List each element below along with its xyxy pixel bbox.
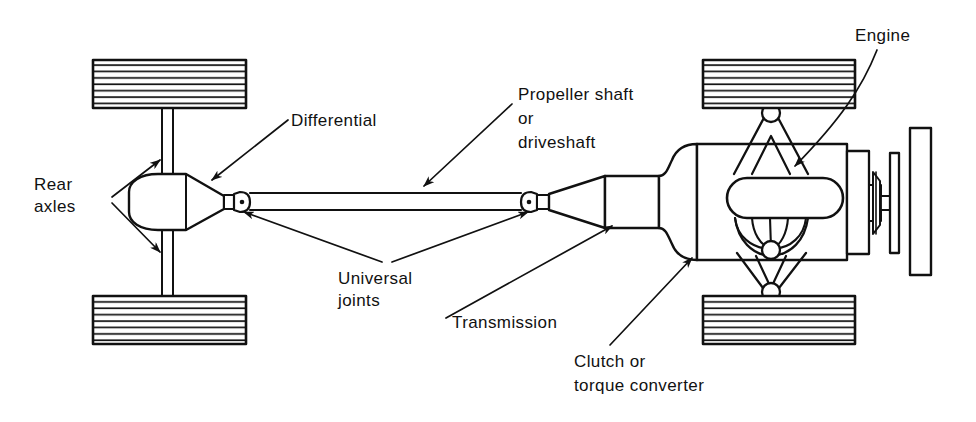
- rear-right-tire: [93, 296, 246, 344]
- rear-left-tire: [93, 60, 246, 108]
- label-transmission: Transmission: [452, 313, 557, 332]
- label-differential: Differential: [291, 111, 377, 130]
- cooling-fan: [890, 153, 899, 253]
- drivetrain-diagram: Rear axles Differential Propeller shaft …: [0, 0, 976, 422]
- front-left-tire: [703, 60, 855, 108]
- diagram-canvas: Rear axles Differential Propeller shaft …: [0, 0, 976, 422]
- radiator: [910, 128, 931, 275]
- engine-block: [697, 144, 847, 260]
- label-engine: Engine: [855, 26, 910, 45]
- universal-joint-front: [521, 192, 537, 212]
- cylinder-head: [727, 178, 843, 218]
- front-right-tire: [703, 296, 855, 344]
- universal-joint-rear: [234, 192, 250, 212]
